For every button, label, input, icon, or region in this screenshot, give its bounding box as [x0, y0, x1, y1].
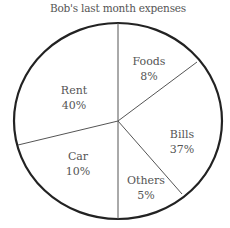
svg-text:Foods: Foods [133, 55, 166, 68]
svg-text:37%: 37% [170, 143, 194, 156]
svg-text:8%: 8% [140, 70, 157, 83]
svg-text:Rent: Rent [61, 84, 88, 97]
svg-text:Car: Car [68, 150, 89, 163]
svg-text:Others: Others [127, 174, 165, 187]
svg-text:10%: 10% [66, 165, 90, 178]
pie-chart: Foods 8% Bills 37% Others 5% Car 10% Ren… [0, 0, 230, 228]
svg-text:5%: 5% [137, 189, 154, 202]
svg-text:40%: 40% [62, 99, 86, 112]
svg-text:Bills: Bills [170, 128, 195, 141]
